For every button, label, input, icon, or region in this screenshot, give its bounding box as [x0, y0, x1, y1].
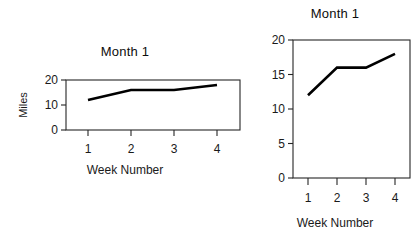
figure-two-line-charts: Month 1 Miles 0 10 20 1 [0, 0, 420, 243]
y-tick-label-right-15: 15 [272, 68, 286, 82]
x-ticks-right [308, 178, 395, 185]
plot-area-left: 0 10 20 1 2 3 4 [0, 0, 250, 243]
plot-area-right: 0 5 10 15 20 1 2 3 4 [250, 0, 420, 243]
x-tick-label-left-1: 1 [85, 142, 92, 156]
data-series-line-right [308, 54, 395, 95]
x-tick-label-right-3: 3 [363, 191, 370, 205]
y-tick-label-left-10: 10 [45, 98, 59, 112]
x-tick-label-left-2: 2 [128, 142, 135, 156]
x-tick-label-left-3: 3 [171, 142, 178, 156]
x-ticks-left [88, 130, 217, 136]
plot-frame-left [66, 80, 240, 130]
x-tick-label-right-4: 4 [392, 191, 399, 205]
y-tick-label-left-0: 0 [51, 123, 58, 137]
y-tick-label-left-20: 20 [45, 73, 59, 87]
chart-panel-left: Month 1 Miles 0 10 20 1 [0, 0, 250, 243]
y-tick-label-right-5: 5 [278, 137, 285, 151]
x-axis-label-right: Week Number [250, 216, 420, 230]
data-series-line-left [88, 85, 217, 100]
plot-frame-right [293, 40, 410, 178]
chart-panel-right: Month 1 0 5 10 15 20 [250, 0, 420, 243]
y-ticks-right [288, 40, 293, 178]
x-tick-label-right-1: 1 [305, 191, 312, 205]
x-tick-label-left-4: 4 [214, 142, 221, 156]
y-tick-label-right-10: 10 [272, 102, 286, 116]
x-axis-label-left: Week Number [0, 163, 250, 177]
y-tick-label-right-20: 20 [272, 33, 286, 47]
y-tick-label-right-0: 0 [278, 171, 285, 185]
y-ticks-left [61, 80, 66, 130]
x-tick-label-right-2: 2 [334, 191, 341, 205]
